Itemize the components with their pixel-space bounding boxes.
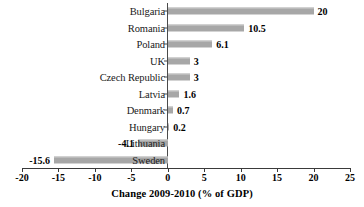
- category-label-denmark: Denmark: [127, 105, 165, 116]
- value-label-denmark: 0.7: [177, 105, 190, 116]
- bar-czech-republic: [168, 74, 190, 81]
- bar-rows: Bulgaria20Romania10.5Poland6.1UK3Czech R…: [0, 3, 364, 168]
- bar-row: Hungary0.2: [0, 119, 364, 136]
- value-label-uk: 3: [194, 55, 199, 66]
- bar-row: Czech Republic3: [0, 69, 364, 86]
- plot-area: Bulgaria20Romania10.5Poland6.1UK3Czech R…: [0, 0, 364, 172]
- category-label-czech-republic: Czech Republic: [100, 72, 165, 83]
- category-label-bulgaria: Bulgaria: [130, 6, 165, 17]
- value-label-lithuania: -4.1: [118, 138, 134, 149]
- bar-row: Lithuania-4.1: [0, 135, 364, 152]
- bar-poland: [168, 41, 212, 48]
- value-label-poland: 6.1: [216, 39, 229, 50]
- x-axis-title: Change 2009-2010 (% of GDP): [0, 188, 364, 199]
- bar-uk: [168, 57, 190, 64]
- bar-denmark: [168, 107, 173, 114]
- category-label-hungary: Hungary: [129, 121, 165, 132]
- bar-row: UK3: [0, 53, 364, 70]
- x-axis-ticks: -20-15-10-50510152025: [0, 168, 364, 188]
- bar-romania: [168, 24, 245, 31]
- bar-row: Romania10.5: [0, 20, 364, 37]
- x-tick-label: 25: [345, 172, 355, 183]
- value-label-hungary: 0.2: [173, 121, 186, 132]
- x-tick-label: 15: [272, 172, 282, 183]
- bar-chart: Bulgaria20Romania10.5Poland6.1UK3Czech R…: [0, 0, 364, 207]
- value-label-bulgaria: 20: [318, 6, 328, 17]
- value-label-romania: 10.5: [248, 22, 266, 33]
- x-tick-label: 10: [236, 172, 246, 183]
- value-label-czech-republic: 3: [194, 72, 199, 83]
- x-tick-label: 20: [309, 172, 319, 183]
- value-label-sweden: -15.6: [29, 154, 50, 165]
- x-tick-label: -15: [52, 172, 65, 183]
- bar-latvia: [168, 90, 180, 97]
- bar-bulgaria: [168, 8, 314, 15]
- category-label-latvia: Latvia: [139, 88, 165, 99]
- category-label-poland: Poland: [136, 39, 165, 50]
- category-label-romania: Romania: [128, 22, 165, 33]
- x-tick-label: -5: [127, 172, 135, 183]
- category-label-uk: UK: [150, 55, 165, 66]
- x-tick-label: 5: [202, 172, 207, 183]
- category-label-sweden: Sweden: [132, 154, 165, 165]
- x-tick-label: -10: [88, 172, 101, 183]
- bar-row: Poland6.1: [0, 36, 364, 53]
- bar-row: Bulgaria20: [0, 3, 364, 20]
- bar-row: Latvia1.6: [0, 86, 364, 103]
- x-tick-label: -20: [15, 172, 28, 183]
- value-label-latvia: 1.6: [183, 88, 196, 99]
- bar-row: Sweden-15.6: [0, 152, 364, 169]
- bar-hungary: [168, 123, 169, 130]
- bar-row: Denmark0.7: [0, 102, 364, 119]
- x-tick-label: 0: [165, 172, 170, 183]
